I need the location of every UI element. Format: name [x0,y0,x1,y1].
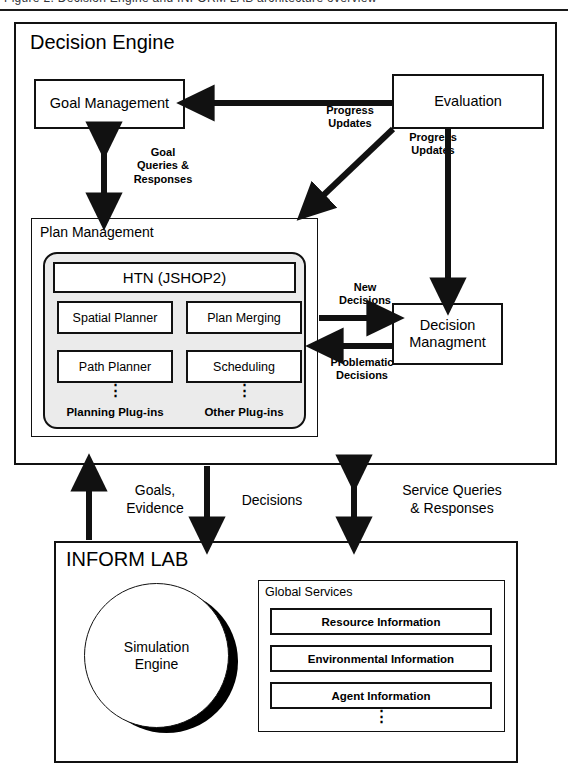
edge-label-service-queries: Service Queries & Responses [377,482,527,517]
simulation-engine-node[interactable]: Simulation Engine [84,583,229,728]
service-environmental-information-label: Environmental Information [308,653,454,665]
decision-engine-title: Decision Engine [30,31,175,54]
cut-off-header-text: Figure 2. Decision Engine and INFORM LAB… [0,0,568,9]
planning-plugins-ellipsis: ⋮ [108,386,122,394]
decision-management-node[interactable]: Decision Managment [392,303,503,365]
edge-label-problematic-decisions: Problematic Decisions [325,356,399,383]
plugin-plan-merging-label: Plan Merging [207,311,281,325]
evaluation-node[interactable]: Evaluation [392,74,544,129]
evaluation-label: Evaluation [434,93,502,110]
diagram-canvas: Figure 2. Decision Engine and INFORM LAB… [0,0,568,774]
goal-management-label: Goal Management [50,95,169,112]
htn-label: HTN (JSHOP2) [123,269,226,286]
inform-lab-title: INFORM LAB [66,548,188,571]
plan-management-title: Plan Management [40,224,154,240]
service-agent-information[interactable]: Agent Information [270,682,492,709]
edge-label-goals-evidence: Goals, Evidence [108,482,202,517]
service-agent-information-label: Agent Information [331,690,430,702]
plugin-path-planner-label: Path Planner [79,360,151,374]
htn-box[interactable]: HTN (JSHOP2) [53,262,296,293]
goal-management-node[interactable]: Goal Management [34,79,185,129]
edge-label-goal-plan: Goal Queries & Responses [122,146,204,186]
simulation-engine-label: Simulation Engine [124,639,189,673]
edge-label-decisions: Decisions [222,492,322,510]
service-resource-information[interactable]: Resource Information [270,608,492,635]
global-services-ellipsis: ⋮ [374,712,388,720]
plugin-scheduling-label: Scheduling [213,360,275,374]
plugin-spatial-planner-label: Spatial Planner [73,311,158,325]
global-services-title: Global Services [265,585,353,599]
service-environmental-information[interactable]: Environmental Information [270,645,492,672]
edge-label-eval-to-plan: Progress Updates [396,131,470,158]
edge-label-new-decisions: New Decisions [334,281,396,308]
service-resource-information-label: Resource Information [322,616,441,628]
plugin-scheduling[interactable]: Scheduling [186,350,302,383]
planning-plugins-caption: Planning Plug-ins [57,406,173,418]
plugin-path-planner[interactable]: Path Planner [57,350,173,383]
header-rule [0,9,568,11]
other-plugins-caption: Other Plug-ins [186,406,302,418]
edge-label-eval-to-goal: Progress Updates [313,104,387,131]
plugin-spatial-planner[interactable]: Spatial Planner [57,301,173,334]
plugin-plan-merging[interactable]: Plan Merging [186,301,302,334]
other-plugins-ellipsis: ⋮ [237,386,251,394]
decision-management-label: Decision Managment [409,317,486,351]
